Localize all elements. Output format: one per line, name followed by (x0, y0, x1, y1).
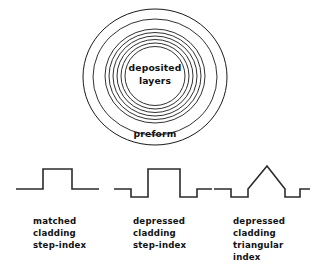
preform-label: preform (134, 128, 177, 139)
preform-cross-section-diagram: deposited layers preform (83, 9, 227, 145)
caption-2-line-2: cladding (133, 228, 176, 238)
index-profile-depressed-cladding-triangular-index: depressed cladding triangular index (214, 166, 310, 262)
profile-curve-2 (114, 169, 212, 197)
caption-2-line-3: step-index (133, 240, 187, 250)
index-profile-matched-cladding-step-index: matched cladding step-index (16, 169, 99, 250)
preform-and-index-profiles-figure: deposited layers preform matched claddin… (0, 0, 312, 272)
profile-curve-1 (16, 169, 99, 189)
caption-1-line-2: cladding (33, 228, 76, 238)
profile-curve-3 (214, 166, 310, 197)
caption-1-line-1: matched (33, 216, 76, 226)
deposited-layers-label-line2: layers (139, 75, 172, 86)
caption-3-line-1: depressed (233, 216, 285, 226)
caption-3-line-4: index (233, 252, 261, 262)
deposited-layers-label-line1: deposited (129, 62, 182, 73)
caption-1-line-3: step-index (33, 240, 87, 250)
caption-3-line-2: cladding (233, 228, 276, 238)
figure-root: deposited layers preform matched claddin… (0, 0, 312, 272)
caption-2-line-1: depressed (133, 216, 185, 226)
caption-3-line-3: triangular (233, 240, 284, 250)
index-profile-depressed-cladding-step-index: depressed cladding step-index (114, 169, 212, 250)
